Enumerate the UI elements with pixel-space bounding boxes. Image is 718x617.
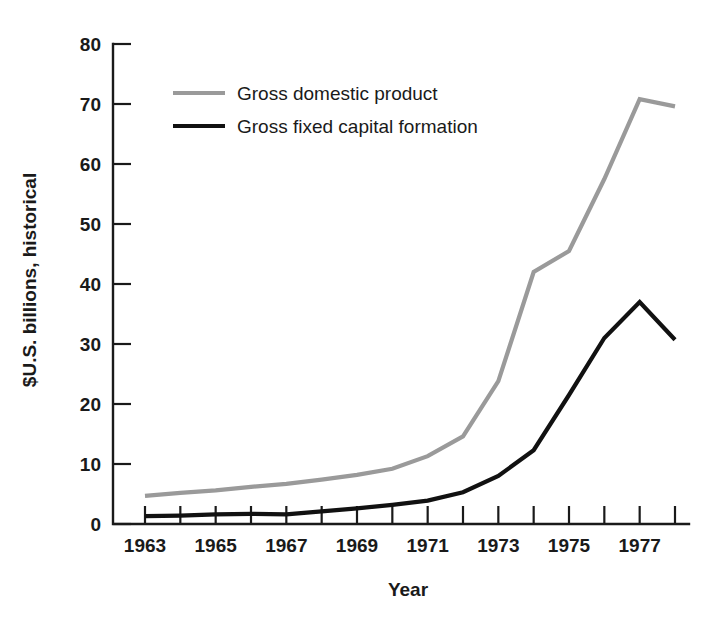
series-line [145,302,675,516]
series-line [145,99,675,496]
y-tick-label: 0 [90,514,101,535]
x-axis-tick-labels: 19631965196719691971197319751977 [124,535,661,556]
figure-container: 01020304050607080 1963196519671969197119… [0,0,718,617]
x-tick-label: 1977 [619,535,661,556]
y-tick-label: 60 [80,154,101,175]
chart-legend: Gross domestic productGross fixed capita… [173,83,478,137]
y-tick-label: 40 [80,274,101,295]
y-tick-label: 50 [80,214,101,235]
legend-label: Gross domestic product [237,83,438,104]
y-axis-tick-labels: 01020304050607080 [80,34,101,535]
x-tick-label: 1963 [124,535,166,556]
y-tick-label: 70 [80,94,101,115]
y-tick-label: 80 [80,34,101,55]
series-lines [145,99,675,516]
x-axis-title: Year [388,579,429,600]
x-tick-label: 1965 [195,535,238,556]
x-tick-label: 1973 [477,535,519,556]
y-tick-label: 30 [80,334,101,355]
x-tick-label: 1969 [336,535,378,556]
legend-label: Gross fixed capital formation [237,116,478,137]
x-tick-label: 1975 [548,535,591,556]
x-tick-label: 1971 [407,535,450,556]
y-axis-title: $U.S. billions, historical [19,173,40,387]
y-tick-label: 10 [80,454,101,475]
line-chart: 01020304050607080 1963196519671969197119… [0,0,718,617]
x-tick-label: 1967 [265,535,307,556]
y-tick-label: 20 [80,394,101,415]
